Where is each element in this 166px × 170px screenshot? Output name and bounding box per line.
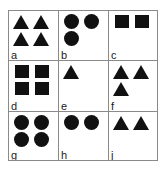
circle-icon <box>13 132 30 147</box>
shape-group-g <box>13 115 55 150</box>
grid-cell-a: a <box>9 11 59 61</box>
square-icon <box>33 64 50 79</box>
square-icon <box>113 14 130 29</box>
circle-icon <box>33 115 50 130</box>
triangle-icon <box>33 14 50 29</box>
circle-icon <box>63 31 80 46</box>
triangle-icon <box>13 31 30 46</box>
grid-cell-d: d <box>9 61 59 112</box>
shape-group-f <box>113 64 154 101</box>
square-icon <box>33 81 50 96</box>
circle-icon <box>13 115 30 130</box>
triangle-icon <box>33 31 50 46</box>
circle-icon <box>33 132 50 147</box>
grid-cell-e: e <box>59 61 109 112</box>
shape-group-a <box>13 14 55 50</box>
triangle-icon <box>63 64 80 79</box>
cell-label-a: a <box>11 50 17 61</box>
circle-icon <box>83 14 100 29</box>
cell-label-c: c <box>111 50 117 61</box>
cell-label-j: j <box>111 150 113 160</box>
triangle-icon <box>133 64 150 79</box>
cell-label-b: b <box>61 50 67 61</box>
square-icon <box>13 81 30 96</box>
square-icon <box>13 64 30 79</box>
shape-group-h <box>63 115 105 150</box>
triangle-icon <box>113 115 130 130</box>
grid-cell-b: b <box>59 11 109 61</box>
shape-group-c <box>113 14 154 50</box>
shape-group-b <box>63 14 105 50</box>
triangle-icon <box>113 64 130 79</box>
shape-grid-diagram: abcdefghj <box>8 10 158 161</box>
cell-label-d: d <box>11 101 17 112</box>
circle-icon <box>83 115 100 130</box>
grid-cell-c: c <box>109 11 157 61</box>
triangle-icon <box>13 14 30 29</box>
shape-group-j <box>113 115 154 150</box>
cell-label-h: h <box>61 150 67 160</box>
square-icon <box>133 14 150 29</box>
grid-cell-f: f <box>109 61 157 112</box>
triangle-icon <box>113 81 130 96</box>
triangle-icon <box>133 115 150 130</box>
circle-icon <box>63 115 80 130</box>
cell-label-g: g <box>11 150 17 160</box>
circle-icon <box>63 14 80 29</box>
grid-cell-h: h <box>59 112 109 160</box>
shape-group-e <box>63 64 105 101</box>
grid-cell-j: j <box>109 112 157 160</box>
cell-label-e: e <box>61 101 67 112</box>
shape-group-d <box>13 64 55 101</box>
cell-label-f: f <box>111 101 114 112</box>
grid-cell-g: g <box>9 112 59 160</box>
